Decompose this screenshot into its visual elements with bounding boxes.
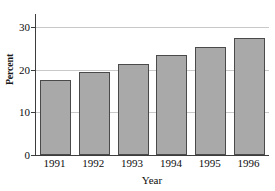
x-tick-label-1993: 1993 bbox=[113, 158, 152, 169]
x-axis-line bbox=[35, 155, 269, 156]
y-tick-label-10: 10 bbox=[6, 107, 30, 118]
x-tick-label-1995: 1995 bbox=[190, 158, 229, 169]
y-tick-mark-20 bbox=[31, 70, 35, 71]
bar bbox=[234, 38, 265, 155]
bar bbox=[118, 64, 149, 155]
x-tick-label-1992: 1992 bbox=[74, 158, 113, 169]
bar-chart: Percent 30 20 10 0 199119921993199419951… bbox=[0, 0, 275, 191]
x-tick-label-1991: 1991 bbox=[35, 158, 74, 169]
x-axis-tick-labels: 199119921993199419951996 bbox=[35, 158, 269, 174]
y-tick-mark-30 bbox=[31, 27, 35, 28]
x-tick-label-1996: 1996 bbox=[229, 158, 268, 169]
bar bbox=[79, 72, 110, 155]
y-axis-tick-labels: 30 20 10 0 bbox=[4, 0, 30, 191]
x-tick-label-1994: 1994 bbox=[152, 158, 191, 169]
y-tick-mark-10 bbox=[31, 112, 35, 113]
x-axis-title: Year bbox=[35, 174, 269, 186]
y-tick-label-30: 30 bbox=[6, 22, 30, 33]
y-tick-label-20: 20 bbox=[6, 65, 30, 76]
y-tick-mark-0 bbox=[31, 155, 35, 156]
plot-area bbox=[35, 14, 269, 156]
bar bbox=[195, 47, 226, 155]
y-tick-label-0: 0 bbox=[6, 150, 30, 161]
bar bbox=[156, 55, 187, 155]
bar bbox=[40, 80, 71, 155]
bar-series bbox=[36, 14, 269, 155]
